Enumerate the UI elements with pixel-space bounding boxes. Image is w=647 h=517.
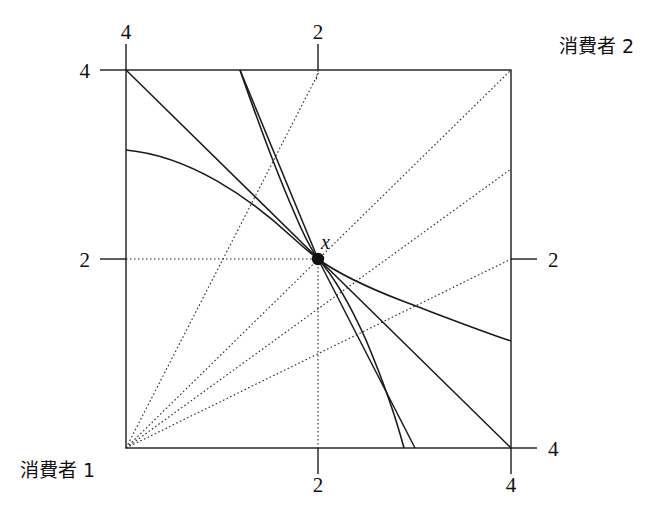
tick-label-right-bottom: 4 bbox=[548, 437, 559, 461]
tick-label-bottom-mid: 2 bbox=[313, 473, 324, 497]
allocation-point-label: x bbox=[320, 231, 330, 253]
tick-label-right-mid: 2 bbox=[548, 248, 559, 272]
tick-label-left-mid: 2 bbox=[80, 248, 91, 272]
tick-label-left-top: 4 bbox=[80, 59, 91, 83]
dotted-gridline-group bbox=[126, 70, 318, 448]
allocation-point-marker bbox=[312, 253, 324, 265]
edgeworth-box-chart: x 4 2 4 2 2 4 2 4 消費者 2 消費者 1 bbox=[0, 0, 647, 517]
second-budget-line-upper bbox=[240, 70, 318, 259]
consumer1-indifference-curve bbox=[126, 150, 404, 448]
tick-label-top-mid: 2 bbox=[313, 20, 324, 44]
consumer2-label: 消費者 2 bbox=[559, 35, 634, 57]
tick-label-bottom-right: 4 bbox=[506, 473, 517, 497]
consumer1-label: 消費者 1 bbox=[20, 459, 95, 481]
consumer2-indifference-curve bbox=[240, 70, 511, 341]
second-budget-line-lower bbox=[318, 259, 415, 448]
edgeworth-box-figure: x 4 2 4 2 2 4 2 4 消費者 2 消費者 1 bbox=[0, 0, 647, 517]
tick-label-top-left: 4 bbox=[121, 20, 132, 44]
gridline-top-stub bbox=[316, 70, 318, 82]
